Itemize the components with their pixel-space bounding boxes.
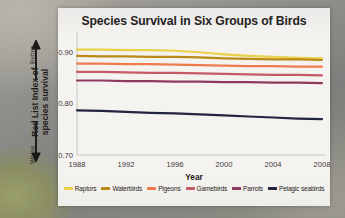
series-line — [77, 72, 322, 76]
x-tick-label: 2008 — [314, 160, 330, 169]
legend-item[interactable]: Gamebirds — [186, 185, 227, 192]
legend-color-swatch — [147, 187, 156, 189]
x-tick-label: 2000 — [216, 160, 233, 169]
legend-label: Pigeons — [158, 185, 180, 192]
legend-label: Waterbirds — [112, 185, 142, 192]
legend-item[interactable]: Pelagic seabirds — [268, 185, 324, 192]
arrow-up-icon — [32, 40, 40, 49]
legend-color-swatch — [101, 187, 110, 189]
y-tick-label: 0.90 — [58, 48, 73, 57]
series-line — [77, 64, 322, 67]
chart-title: Species Survival in Six Groups of Birds — [58, 14, 330, 28]
legend-item[interactable]: Waterbirds — [101, 185, 142, 192]
chart-legend: RaptorsWaterbirdsPigeonsGamebirdsParrots… — [60, 185, 328, 192]
legend-color-swatch — [64, 187, 73, 189]
arrow-down-icon — [32, 153, 40, 162]
legend-item[interactable]: Parrots — [232, 185, 263, 192]
x-axis-title: Year — [58, 172, 330, 182]
legend-item[interactable]: Pigeons — [147, 185, 180, 192]
legend-label: Raptors — [75, 185, 97, 192]
series-line — [77, 110, 322, 119]
legend-label: Gamebirds — [197, 185, 227, 192]
y-tick-label: 0.80 — [58, 99, 73, 108]
legend-color-swatch — [232, 187, 241, 189]
legend-label: Parrots — [243, 185, 263, 192]
x-tick-label: 1996 — [167, 160, 184, 169]
y-axis-title: Red List Index of species survival — [30, 52, 52, 152]
y-tick-label: 0.70 — [58, 151, 73, 160]
y-tick-labels: 0.900.800.70 — [58, 48, 73, 160]
series-line — [77, 81, 322, 84]
legend-item[interactable]: Raptors — [64, 185, 97, 192]
legend-color-swatch — [186, 187, 195, 189]
x-tick-labels: 198819921996200020042008 — [69, 160, 330, 169]
x-tick-label: 1992 — [118, 160, 135, 169]
legend-color-swatch — [268, 187, 277, 189]
x-tick-label: 2004 — [265, 160, 282, 169]
x-tick-label: 1988 — [69, 160, 86, 169]
series-lines — [77, 50, 322, 119]
legend-label: Pelagic seabirds — [279, 185, 324, 192]
